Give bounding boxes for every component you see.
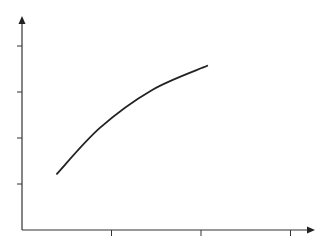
- line-chart: [0, 0, 325, 248]
- x-axis: [22, 227, 315, 237]
- x-axis-arrow-icon: [307, 227, 315, 234]
- x-ticks: [112, 230, 291, 236]
- y-axis-arrow-icon: [19, 16, 26, 24]
- y-axis: [17, 16, 26, 230]
- data-curve: [57, 66, 207, 174]
- y-ticks: [17, 46, 22, 184]
